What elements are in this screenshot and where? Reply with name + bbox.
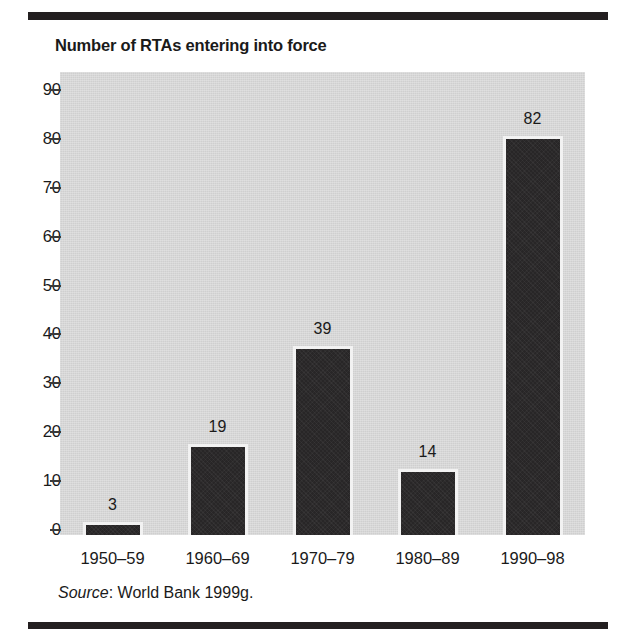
- y-axis-tick-mark: [50, 333, 61, 335]
- bar: [188, 444, 248, 535]
- bar: [398, 469, 458, 535]
- x-axis-tick-label: 1960–69: [158, 549, 278, 568]
- bar-texture-overlay: [191, 447, 245, 535]
- y-axis-tick-mark: [50, 529, 61, 531]
- bar-value-label: 82: [493, 110, 573, 128]
- bar-texture-overlay: [506, 139, 560, 535]
- source-separator: :: [109, 584, 118, 601]
- source-text: World Bank 1999g.: [118, 584, 254, 601]
- plot-area: [60, 72, 585, 535]
- x-axis-tick-label: 1980–89: [368, 549, 488, 568]
- bar-value-label: 39: [283, 320, 363, 338]
- x-axis-tick-label: 1950–59: [53, 549, 173, 568]
- bar-value-label: 19: [178, 418, 258, 436]
- source-label: Source: [58, 584, 109, 601]
- bar-value-label: 14: [388, 443, 468, 461]
- y-axis-tick-mark: [50, 285, 61, 287]
- bar: [503, 136, 563, 535]
- bar-texture-overlay: [296, 349, 350, 535]
- figure-panel: Number of RTAs entering into force 01020…: [0, 0, 625, 643]
- x-axis-tick-label: 1990–98: [473, 549, 593, 568]
- source-note: Source: World Bank 1999g.: [58, 584, 253, 602]
- x-axis-tick-label: 1970–79: [263, 549, 383, 568]
- bottom-rule: [28, 622, 608, 629]
- bar: [83, 522, 143, 535]
- y-axis-tick-mark: [50, 138, 61, 140]
- y-axis-tick-mark: [50, 187, 61, 189]
- bar: [293, 346, 353, 535]
- y-axis: 0102030405060708090: [0, 0, 61, 643]
- top-rule: [28, 12, 608, 20]
- y-axis-tick-mark: [50, 382, 61, 384]
- chart-title: Number of RTAs entering into force: [55, 36, 327, 55]
- y-axis-tick-mark: [50, 236, 61, 238]
- y-axis-tick-mark: [50, 89, 61, 91]
- bar-value-label: 3: [73, 496, 153, 514]
- y-axis-tick-mark: [50, 480, 61, 482]
- bar-texture-overlay: [86, 525, 140, 535]
- bar-texture-overlay: [401, 472, 455, 535]
- y-axis-tick-mark: [50, 431, 61, 433]
